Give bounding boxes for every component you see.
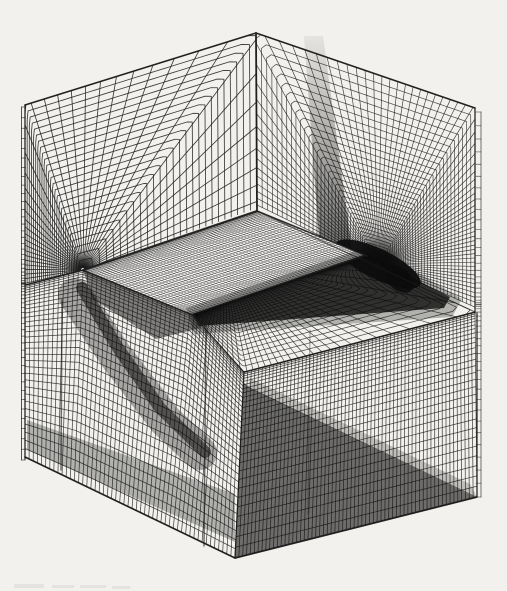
wing-grid-wireframe-canvas — [0, 0, 507, 591]
scanned-figure-page — [0, 0, 507, 591]
